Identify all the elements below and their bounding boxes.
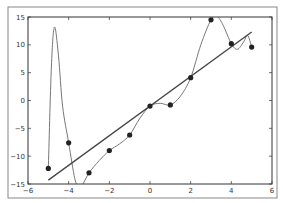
data-point: [107, 148, 112, 153]
x-tick-label: 6: [270, 187, 275, 195]
data-point: [86, 170, 91, 175]
y-tick-label: −15: [10, 181, 25, 189]
x-tick-label: 0: [148, 187, 152, 195]
data-point: [147, 103, 152, 108]
x-tick-label: 2: [188, 187, 192, 195]
x-tick-label: −2: [104, 187, 114, 195]
y-tick-label: 0: [21, 97, 25, 105]
data-point: [229, 41, 234, 46]
y-tick-label: 15: [16, 14, 25, 22]
y-tick-label: −10: [10, 153, 25, 161]
y-tick-label: 10: [16, 41, 25, 49]
data-point: [168, 102, 173, 107]
data-point: [46, 166, 51, 171]
x-tick-label: −4: [64, 187, 75, 195]
data-point: [127, 132, 132, 137]
data-point: [249, 44, 254, 49]
data-point: [208, 17, 213, 22]
plot-area: [28, 16, 272, 187]
plot-background: [28, 17, 272, 184]
y-tick-label: −5: [15, 125, 25, 133]
figure: −6−4−20246 −15−10−5051015: [0, 0, 283, 203]
data-point: [66, 140, 71, 145]
x-tick-label: 4: [229, 187, 234, 195]
y-tick-label: 5: [21, 69, 25, 77]
data-point: [188, 75, 193, 80]
